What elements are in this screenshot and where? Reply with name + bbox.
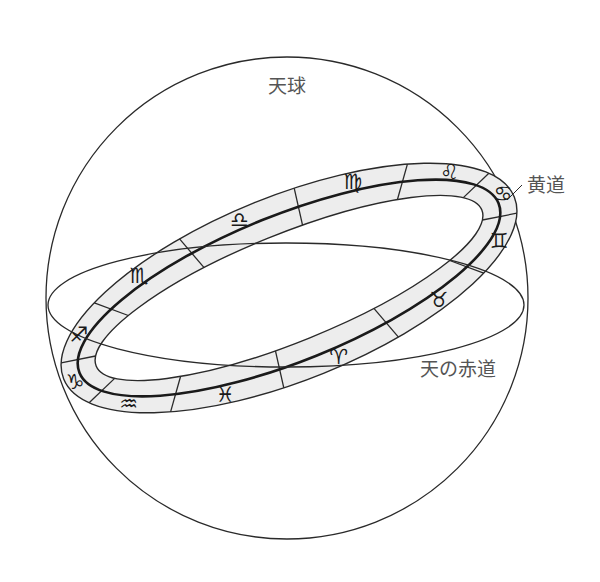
celestial-equator-label: 天の赤道 <box>420 360 496 379</box>
ecliptic-label: 黄道 <box>527 176 565 195</box>
ecliptic-band <box>29 112 549 465</box>
zodiac-sagittarius-icon: ♐︎ <box>69 323 88 347</box>
zodiac-gemini-icon: ♊︎ <box>490 229 509 253</box>
zodiac-taurus-icon: ♉︎ <box>430 288 449 312</box>
zodiac-virgo-icon: ♍︎ <box>343 170 362 194</box>
zodiac-libra-icon: ♎︎ <box>230 208 249 232</box>
celestial-sphere-label: 天球 <box>268 77 306 96</box>
ecliptic-outer-edge <box>29 112 549 465</box>
zodiac-scorpio-icon: ♏︎ <box>130 264 149 288</box>
ecliptic-band-fill <box>29 112 549 465</box>
zodiac-pisces-icon: ♓︎ <box>216 383 235 407</box>
zodiac-aquarius-icon: ♒︎ <box>119 392 138 416</box>
celestial-sphere-diagram: ♈︎♉︎♊︎♋︎♌︎♍︎♎︎♏︎♐︎♑︎♒︎♓︎ 天球 黄道 天の赤道 <box>0 0 600 582</box>
zodiac-aries-icon: ♈︎ <box>329 345 348 369</box>
zodiac-leo-icon: ♌︎ <box>440 160 459 184</box>
zodiac-cancer-icon: ♋︎ <box>493 182 512 206</box>
zodiac-capricorn-icon: ♑︎ <box>66 370 85 394</box>
